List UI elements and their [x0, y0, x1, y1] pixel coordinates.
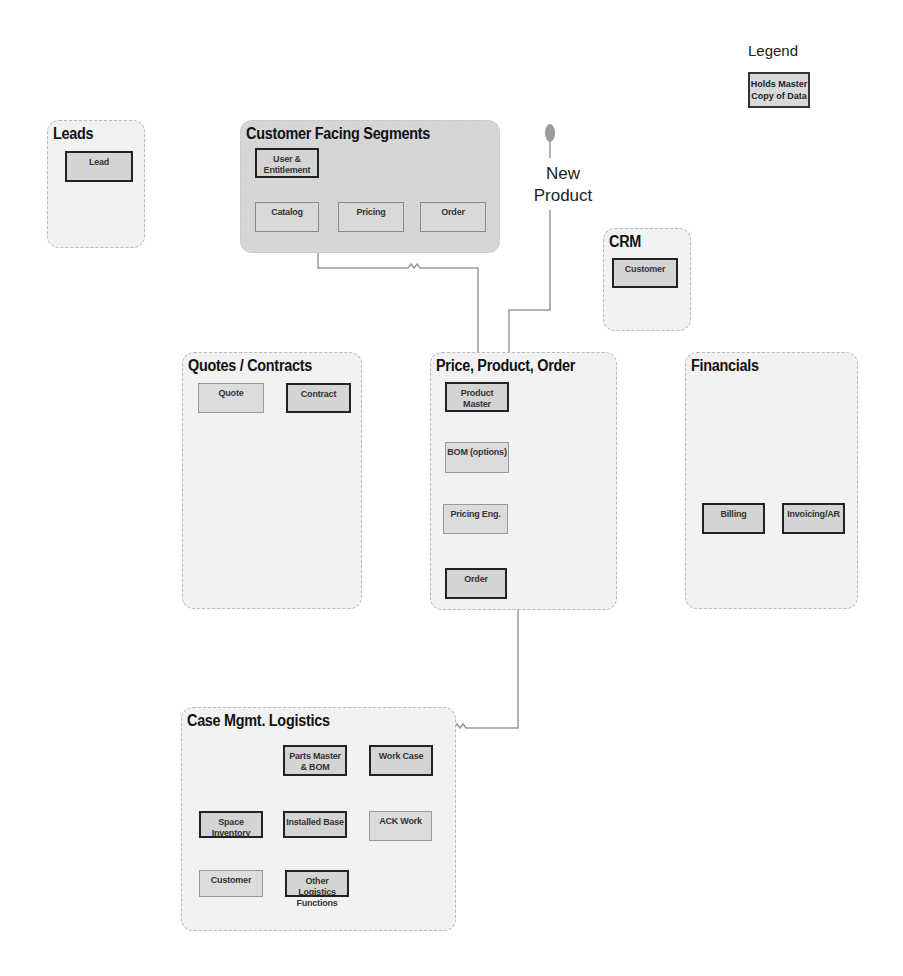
legend-title: Legend: [748, 42, 798, 59]
node-billing[interactable]: Billing: [702, 503, 765, 534]
group-title: Customer Facing Segments: [246, 125, 430, 143]
node-pricing-eng[interactable]: Pricing Eng.: [443, 504, 508, 534]
group-financials: Financials Billing Invoicing/AR: [685, 352, 858, 609]
group-crm: CRM Customer: [603, 228, 691, 331]
node-lead[interactable]: Lead: [65, 151, 133, 182]
node-space-inventory[interactable]: Space Inventory: [199, 811, 263, 838]
group-case-mgmt-logistics: Case Mgmt. Logistics Parts Master & BOM …: [181, 707, 456, 931]
group-title: Price, Product, Order: [436, 357, 575, 375]
node-order[interactable]: Order: [445, 568, 507, 599]
node-pricing[interactable]: Pricing: [338, 202, 404, 232]
node-bom-options[interactable]: BOM (options): [445, 442, 509, 473]
start-dot-icon: [545, 124, 555, 142]
legend-master-swatch: Holds Master Copy of Data: [748, 72, 810, 108]
node-catalog[interactable]: Catalog: [255, 202, 319, 232]
new-product-line2: Product: [533, 185, 593, 207]
group-quotes-contracts: Quotes / Contracts Quote Contract: [182, 352, 362, 609]
node-parts-master-bom[interactable]: Parts Master & BOM: [283, 745, 347, 776]
group-title: Leads: [53, 125, 93, 143]
group-title: CRM: [609, 233, 641, 251]
group-price-product-order: Price, Product, Order Product Master BOM…: [430, 352, 617, 610]
group-customer-facing-segments: Customer Facing Segments User & Entitlem…: [240, 120, 500, 253]
group-title: Quotes / Contracts: [188, 357, 312, 375]
node-product-master[interactable]: Product Master: [445, 382, 509, 412]
node-other-logistics-functions[interactable]: Other Logistics Functions: [285, 870, 349, 897]
group-leads: Leads Lead: [47, 120, 145, 248]
node-customer[interactable]: Customer: [199, 870, 263, 897]
node-customer[interactable]: Customer: [612, 258, 678, 288]
node-work-case[interactable]: Work Case: [369, 745, 433, 776]
group-title: Financials: [691, 357, 759, 375]
node-installed-base[interactable]: Installed Base: [283, 811, 347, 838]
group-title: Case Mgmt. Logistics: [187, 712, 330, 730]
new-product-line1: New: [533, 163, 593, 185]
new-product-label: New Product: [533, 163, 593, 207]
node-quote[interactable]: Quote: [198, 383, 264, 413]
node-invoicing-ar[interactable]: Invoicing/AR: [782, 503, 845, 534]
node-order[interactable]: Order: [420, 202, 486, 232]
node-contract[interactable]: Contract: [286, 383, 351, 413]
node-ack-work[interactable]: ACK Work: [369, 811, 432, 841]
node-user-entitlement[interactable]: User & Entitlement: [255, 148, 319, 178]
